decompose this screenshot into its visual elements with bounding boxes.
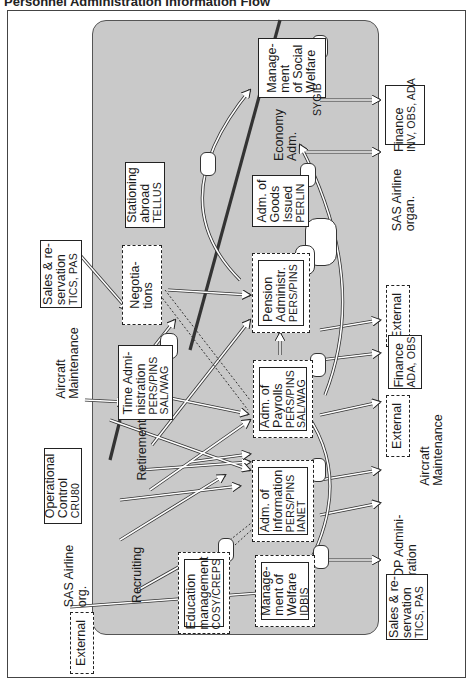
box-stationing: Stationing abroad TELLUS: [125, 162, 165, 228]
label-recruiting: Recruiting: [128, 545, 148, 605]
box-education-inner: Education management COSY/CREPS: [184, 559, 224, 627]
label: tions: [142, 261, 155, 308]
label: org.: [76, 545, 89, 608]
box-payrolls-inner: Adm. of Payrolls PERS/PINS SAL/WAG: [259, 367, 307, 431]
system-code: PERS/PINS: [148, 351, 159, 414]
system-code: TICS, PAS: [415, 576, 426, 638]
database-icon: [313, 545, 329, 569]
label: Maintenance: [68, 327, 81, 399]
system-code: INV, OBS, ADA: [406, 78, 417, 152]
box-sales-left: Sales & re- servation TICS, PAS: [40, 240, 82, 308]
system-code: COSY/CREPS: [212, 557, 223, 630]
box-social-welfare: Manage- ment of Social Welfare SYGIB: [258, 38, 326, 98]
box-operational: Operational Control CRU80: [44, 448, 82, 524]
system-code: ADA, OBS: [406, 336, 417, 387]
label: Adm.: [286, 109, 299, 161]
box-negotiations: Negotia- tions: [122, 245, 162, 325]
system-code: SAL/WAG: [159, 351, 170, 414]
label: External: [391, 293, 404, 339]
label-economy: Economy Adm.: [268, 105, 304, 165]
box-welfare-inner: Manage- ment of Welfare IDBIS: [261, 562, 309, 620]
system-code: SAL/WAG: [296, 370, 307, 428]
box-information: Adm. of Information PERS/PINS IANET: [252, 460, 314, 542]
box-external-left: External: [70, 612, 94, 674]
label-retirement: Retirement: [133, 420, 153, 480]
box-pension-inner: Pension Administr. PERS/PINS: [258, 260, 304, 326]
box-welfare: Manage- ment of Welfare IDBIS: [255, 555, 315, 627]
system-code: TICS, PAS: [69, 243, 80, 305]
box-education: Education management COSY/CREPS: [178, 552, 230, 634]
box-finance-top: Finance INV, OBS, ADA: [385, 85, 425, 145]
label-aircraft-right: Aircraft Maintenance: [414, 410, 450, 490]
box-finance-mid: Finance ADA, OBS: [388, 335, 422, 389]
box-sales-right: Sales & re- servation TICS, PAS: [386, 574, 428, 640]
label: Maintenance: [432, 414, 445, 486]
label: External: [391, 403, 404, 449]
label: External: [75, 620, 88, 666]
system-code: IDBIS: [299, 566, 310, 615]
box-payrolls: Adm. of Payrolls PERS/PINS SAL/WAG: [253, 360, 313, 438]
box-external-2: External: [386, 395, 410, 457]
system-code: SYGIB: [311, 83, 323, 116]
system-code: CRU80: [71, 454, 82, 519]
label: Adm. of: [255, 179, 268, 222]
box-pension: Pension Administr. PERS/PINS: [252, 253, 310, 333]
system-code: PERS/PINS: [289, 264, 300, 322]
system-code: PERLIN: [295, 179, 306, 222]
database-icon: [200, 152, 216, 176]
label-sas-organ: SAS Airline organ.: [386, 165, 422, 235]
box-time-admin: Time Admi- nistration PERS/PINS SAL/WAG: [118, 345, 173, 420]
label-aircraft-left: Aircraft Maintenance: [50, 318, 86, 408]
label: organ.: [404, 169, 417, 232]
box-information-inner: Adm. of Information PERS/PINS IANET: [258, 467, 308, 535]
label: Goods: [268, 179, 281, 222]
label: nistration: [134, 351, 147, 414]
system-code: TELLUS: [153, 167, 164, 223]
label: Retirement: [136, 419, 149, 480]
label: Issued: [282, 179, 295, 222]
label: Time Admi-: [121, 351, 134, 414]
box-goods-issued: Adm. of Goods Issued PERLIN: [252, 175, 309, 227]
label: Recruiting: [131, 547, 144, 603]
label-sas-org: SAS Airline org.: [58, 540, 94, 612]
system-code: IANET: [296, 470, 307, 533]
